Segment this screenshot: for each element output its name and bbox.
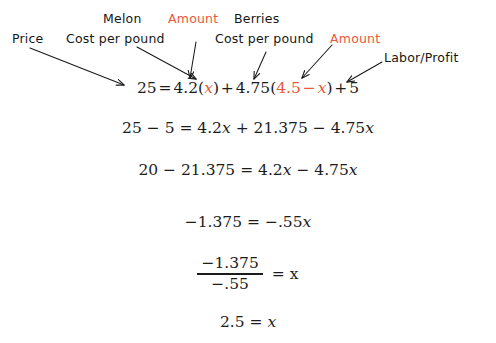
label-melon-cost-per-pound: Cost per pound bbox=[66, 33, 165, 46]
eq1-berries-rate: 4.75 bbox=[236, 79, 271, 97]
equation-line-3: 20 − 21.375 = 4.2x − 4.75x bbox=[0, 163, 496, 179]
fraction-denominator: −.55 bbox=[207, 275, 253, 293]
eq1-plus-2: + bbox=[332, 79, 349, 97]
arrow-amount-berries bbox=[302, 45, 332, 78]
eq1-variable-melon: x bbox=[204, 79, 213, 97]
worksheet-canvas: Price Melon Cost per pound Amount Berrie… bbox=[0, 0, 496, 343]
eq1-minus: − bbox=[301, 79, 318, 97]
equation-line-4: −1.375 = −.55x bbox=[0, 215, 496, 231]
eq1-lhs: 25 bbox=[137, 79, 157, 97]
equation-line-2: 25 − 5 = 4.2x + 21.375 − 4.75x bbox=[0, 121, 496, 137]
label-labor-profit: Labor/Profit bbox=[384, 52, 459, 65]
equation-line-6: 2.5 = x bbox=[0, 315, 496, 331]
eq1-plus-1: + bbox=[219, 79, 236, 97]
fraction-numerator: −1.375 bbox=[197, 255, 262, 273]
equation-line-1: 25=4.2(x)+4.75(4.5−x)+5 bbox=[0, 81, 496, 97]
arrow-amount-melon bbox=[190, 42, 196, 78]
eq1-equals: = bbox=[157, 79, 174, 97]
arrow-melon-cost bbox=[137, 47, 196, 79]
eq1-melon-rate: 4.2 bbox=[173, 79, 198, 97]
label-amount-melon: Amount bbox=[168, 13, 218, 26]
label-melon: Melon bbox=[103, 13, 142, 26]
label-amount-berries: Amount bbox=[330, 33, 380, 46]
arrow-price bbox=[30, 48, 124, 85]
fraction: −1.375 −.55 bbox=[197, 255, 262, 293]
arrow-berries-cost bbox=[254, 52, 266, 79]
eq1-labor: 5 bbox=[349, 79, 359, 97]
eq1-amount-total: 4.5 bbox=[276, 79, 301, 97]
equation-line-5: −1.375 −.55 = x bbox=[0, 255, 496, 293]
label-price: Price bbox=[12, 33, 44, 46]
label-berries-cost-per-pound: Cost per pound bbox=[215, 33, 314, 46]
fraction-rhs: = x bbox=[272, 265, 299, 283]
label-berries: Berries bbox=[234, 13, 279, 26]
